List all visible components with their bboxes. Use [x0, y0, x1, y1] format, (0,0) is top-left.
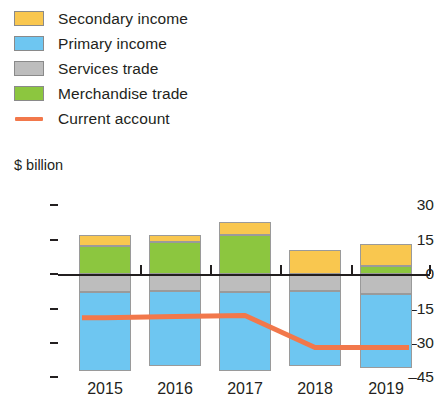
bar-segment [360, 294, 412, 369]
bar-segment [79, 246, 131, 274]
bar-segment [149, 242, 201, 274]
chart-figure: Secondary income Primary income Services… [0, 0, 434, 410]
y-tick-mark-minus30 [50, 342, 58, 344]
y-tick-label-30: 30 [388, 197, 434, 213]
bar-segment [360, 266, 412, 274]
bar-segment [219, 274, 271, 292]
bar-segment [79, 274, 131, 292]
bar-segment [289, 274, 341, 291]
zero-baseline [58, 274, 430, 276]
plot-area: 30 15 0 –15 –30 –45 2015 2016 2017 2018 … [0, 0, 434, 410]
bar-segment [360, 274, 412, 294]
bar-segment [219, 292, 271, 370]
x-tick-label-2017: 2017 [215, 381, 275, 397]
y-tick-mark-minus15 [50, 308, 58, 310]
bar-segment [149, 274, 201, 291]
bar-segment [149, 235, 201, 242]
x-tick-label-2019: 2019 [356, 381, 416, 397]
bar-segment [149, 291, 201, 366]
bar-segment [289, 250, 341, 274]
bar-segment [219, 222, 271, 235]
x-axis-tick-mark [210, 265, 212, 274]
y-tick-mark-0 [50, 273, 58, 275]
bar-segment [360, 244, 412, 266]
x-axis-tick-mark [351, 265, 353, 274]
bar-segment [219, 235, 271, 274]
x-axis-tick-mark [429, 265, 431, 274]
y-tick-mark-minus45 [50, 376, 58, 378]
x-tick-label-2015: 2015 [75, 381, 135, 397]
x-axis-tick-mark [280, 265, 282, 274]
bar-segment [79, 292, 131, 370]
x-tick-label-2018: 2018 [285, 381, 345, 397]
y-tick-mark-15 [50, 239, 58, 241]
y-tick-mark-30 [50, 204, 58, 206]
x-tick-label-2016: 2016 [145, 381, 205, 397]
bar-segment [79, 235, 131, 247]
bar-segment [289, 291, 341, 366]
x-axis-tick-mark [140, 265, 142, 274]
